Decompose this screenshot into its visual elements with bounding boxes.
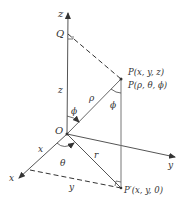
x-to-pprime-dashed [30,170,121,188]
z-segment-label: z [57,85,63,95]
r-label: r [94,150,99,160]
theta-label: θ [60,158,66,168]
z-axis-label: z [57,8,64,19]
x-segment-label: x [38,144,43,154]
point-pprime [120,187,123,190]
r-segment [67,134,121,188]
rho-label: ρ [88,93,95,103]
q-label: Q [56,28,64,39]
p-prime-label: P′(x, y, 0) [123,185,163,195]
phi-at-p-label: ϕ [110,100,116,110]
q-to-p-dashed [68,34,121,79]
phi-arc-p [111,89,121,93]
x-axis [19,134,67,178]
y-segment-label: y [68,182,75,192]
origin-label: O [55,125,63,136]
theta-arc [57,143,74,147]
phi-arc-origin [67,116,79,122]
point-origin [66,133,69,136]
x-axis-label: x [9,173,14,183]
p-spherical-label: P(ρ, θ, ϕ) [127,80,167,90]
y-axis-label: y [167,160,174,170]
diagram-canvas: z Q P(x, y, z) P(ρ, θ, ϕ) z ρ ϕ ϕ O x θ … [0,0,185,204]
point-p [120,78,123,81]
phi-at-o-label: ϕ [71,106,77,116]
spherical-coordinates-diagram: z Q P(x, y, z) P(ρ, θ, ϕ) z ρ ϕ ϕ O x θ … [0,0,185,204]
p-cartesian-label: P(x, y, z) [127,67,164,77]
